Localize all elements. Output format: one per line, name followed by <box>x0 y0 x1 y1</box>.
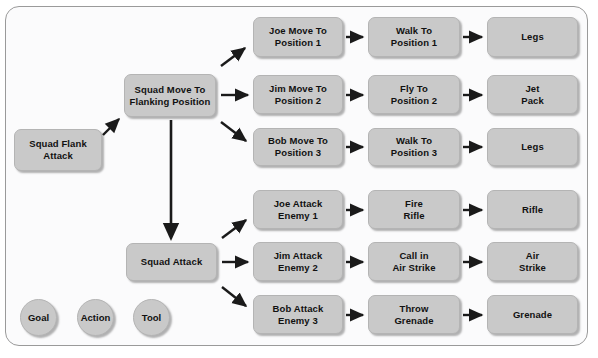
node-legs-2[interactable]: Legs <box>487 128 578 166</box>
node-label: Joe Attack Enemy 1 <box>274 198 323 222</box>
node-jet-pack[interactable]: Jet Pack <box>487 75 578 114</box>
node-label: Fire Rifle <box>403 198 424 222</box>
node-squad-attack[interactable]: Squad Attack <box>126 243 217 281</box>
node-label: Rifle <box>522 204 543 216</box>
node-label: Squad Attack <box>141 256 203 268</box>
node-jim-attack-enemy-2[interactable]: Jim Attack Enemy 2 <box>253 242 343 281</box>
node-label: Jet Pack <box>521 83 544 107</box>
node-label: Call in Air Strike <box>392 250 435 274</box>
node-squad-flank-attack[interactable]: Squad Flank Attack <box>14 129 102 171</box>
legend-label: Action <box>81 312 111 323</box>
node-fly-to-position-2[interactable]: Fly To Position 2 <box>368 75 460 114</box>
node-legs-1[interactable]: Legs <box>487 17 578 57</box>
legend-goal[interactable]: Goal <box>20 299 57 336</box>
node-walk-to-position-1[interactable]: Walk To Position 1 <box>368 17 460 57</box>
legend-tool[interactable]: Tool <box>133 299 170 336</box>
node-squad-move-to-flanking-position[interactable]: Squad Move To Flanking Position <box>124 74 216 117</box>
legend-label: Tool <box>142 312 161 323</box>
node-jim-move-to-position-2[interactable]: Jim Move To Position 2 <box>253 75 343 114</box>
node-fire-rifle[interactable]: Fire Rifle <box>368 190 460 229</box>
node-label: Squad Move To Flanking Position <box>130 84 211 108</box>
node-joe-move-to-position-1[interactable]: Joe Move To Position 1 <box>253 17 343 57</box>
node-air-strike[interactable]: Air Strike <box>487 242 578 281</box>
node-label: Bob Attack Enemy 3 <box>273 303 324 327</box>
node-label: Throw Grenade <box>394 303 433 327</box>
node-label: Legs <box>521 31 544 43</box>
node-rifle[interactable]: Rifle <box>487 190 578 229</box>
node-bob-attack-enemy-3[interactable]: Bob Attack Enemy 3 <box>253 295 343 334</box>
node-label: Squad Flank Attack <box>29 138 87 162</box>
node-label: Walk To Position 3 <box>391 135 437 159</box>
node-label: Jim Move To Position 2 <box>269 83 327 107</box>
node-label: Joe Move To Position 1 <box>269 25 327 49</box>
node-bob-move-to-position-3[interactable]: Bob Move To Position 3 <box>253 128 343 166</box>
node-label: Grenade <box>513 309 552 321</box>
node-walk-to-position-3[interactable]: Walk To Position 3 <box>368 128 460 166</box>
node-label: Air Strike <box>519 250 546 274</box>
node-call-in-air-strike[interactable]: Call in Air Strike <box>368 242 460 281</box>
legend-action[interactable]: Action <box>77 299 114 336</box>
node-label: Jim Attack Enemy 2 <box>274 250 323 274</box>
node-label: Bob Move To Position 3 <box>268 135 328 159</box>
diagram-canvas: Squad Flank AttackSquad Move To Flanking… <box>0 0 598 358</box>
node-label: Walk To Position 1 <box>391 25 437 49</box>
node-grenade[interactable]: Grenade <box>487 295 578 334</box>
node-label: Legs <box>521 141 544 153</box>
node-throw-grenade[interactable]: Throw Grenade <box>368 295 460 334</box>
legend-label: Goal <box>28 312 49 323</box>
node-label: Fly To Position 2 <box>391 83 437 107</box>
node-joe-attack-enemy-1[interactable]: Joe Attack Enemy 1 <box>253 190 343 229</box>
